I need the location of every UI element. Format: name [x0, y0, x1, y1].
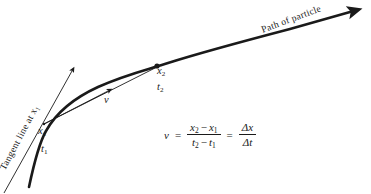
- equation-delta-numerator: Δx: [239, 120, 256, 134]
- average-velocity-equation: v = x2−x1 t2−t1 = Δx Δt: [164, 120, 256, 149]
- equation-num-x2-subscript: 2: [195, 126, 199, 135]
- label-x1-subscript: 1: [43, 130, 47, 138]
- label-t1: t1: [41, 144, 47, 155]
- equation-denominator: t2−t1: [189, 135, 219, 149]
- equation-den-minus: −: [199, 136, 209, 148]
- diagram-canvas: [0, 0, 371, 194]
- equation-fraction-deltas: Δx Δt: [239, 120, 256, 149]
- label-t1-subscript: 1: [44, 148, 48, 156]
- physics-diagram-figure: Path of particle Tangent line at x1 x1 t…: [0, 0, 371, 194]
- particle-path-curve: [29, 12, 350, 187]
- equation-num-x1-subscript: 1: [214, 126, 218, 135]
- label-x1: x1: [38, 126, 46, 137]
- equation-lhs: v: [164, 129, 169, 141]
- equation-numerator: x2−x1: [187, 120, 220, 134]
- equation-fraction-differences: x2−x1 t2−t1: [187, 120, 220, 149]
- equation-equals-1: =: [174, 129, 182, 141]
- label-t2: t2: [157, 82, 163, 93]
- equation-den-t1-subscript: 1: [212, 141, 216, 150]
- label-t2-subscript: 2: [160, 86, 164, 94]
- label-x1-symbol: x: [38, 125, 43, 136]
- label-x2-symbol: x: [157, 65, 162, 76]
- equation-den-t2-subscript: 2: [195, 141, 199, 150]
- label-x2: x2: [157, 66, 165, 77]
- equation-equals-2: =: [226, 129, 234, 141]
- equation-num-minus: −: [199, 121, 209, 133]
- velocity-vector-label: v: [104, 95, 109, 106]
- label-x2-subscript: 2: [162, 70, 166, 78]
- point-x1-t1: [43, 123, 45, 125]
- equation-delta-denominator: Δt: [240, 135, 256, 149]
